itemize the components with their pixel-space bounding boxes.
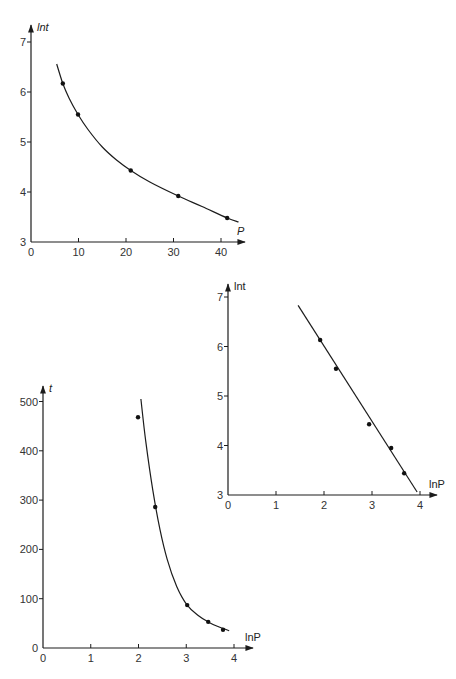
data-point	[206, 620, 210, 624]
y-tick-label: 100	[20, 593, 38, 605]
data-point	[176, 194, 180, 198]
data-point	[334, 367, 338, 371]
y-tick-label: 4	[20, 186, 26, 198]
chart-lnt-vs-p: 010203040 34567 P lnt	[20, 21, 245, 258]
y-tick-label: 200	[20, 543, 38, 555]
data-point	[61, 81, 65, 85]
y-tick-label: 6	[20, 86, 26, 98]
data-point	[318, 338, 322, 342]
y-axis-label: lnt	[37, 21, 50, 33]
y-ticks: 34567	[217, 291, 228, 501]
x-tick-label: 0	[40, 652, 46, 664]
x-tick-label: 3	[183, 652, 189, 664]
x-tick-label: 40	[215, 246, 227, 258]
fit-curve	[141, 399, 229, 631]
x-tick-label: 0	[28, 246, 34, 258]
data-point	[76, 112, 80, 116]
x-axis-label: P	[237, 225, 245, 237]
data-point	[225, 216, 229, 220]
y-tick-label: 300	[20, 494, 38, 506]
x-ticks: 01234	[225, 491, 423, 511]
x-tick-label: 2	[135, 652, 141, 664]
y-tick-label: 0	[32, 642, 38, 654]
y-tick-label: 400	[20, 445, 38, 457]
y-tick-label: 5	[217, 390, 223, 402]
chart-t-vs-lnp: 01234 0100200300400500 lnP t	[20, 382, 261, 664]
data-point	[185, 603, 189, 607]
y-tick-label: 500	[20, 396, 38, 408]
fit-line	[298, 305, 417, 492]
data-points	[136, 415, 225, 632]
x-tick-label: 10	[72, 246, 84, 258]
x-tick-label: 2	[321, 499, 327, 511]
fit-curve	[57, 64, 239, 222]
data-point	[389, 446, 393, 450]
chart-lnt-vs-lnp: 01234 34567 lnP lnt	[217, 280, 445, 511]
y-tick-label: 6	[217, 341, 223, 353]
x-axis-label: lnP	[245, 631, 261, 643]
y-axis-label: lnt	[234, 280, 246, 292]
data-point	[153, 505, 157, 509]
data-point	[367, 422, 371, 426]
y-tick-label: 5	[20, 136, 26, 148]
x-tick-label: 30	[167, 246, 179, 258]
x-tick-label: 1	[88, 652, 94, 664]
x-axis-label: lnP	[429, 478, 445, 490]
x-ticks: 010203040	[28, 238, 227, 258]
data-points	[61, 81, 230, 220]
x-tick-label: 1	[273, 499, 279, 511]
data-point	[221, 628, 225, 632]
x-tick-label: 0	[225, 499, 231, 511]
y-tick-label: 3	[20, 236, 26, 248]
x-tick-label: 20	[120, 246, 132, 258]
x-tick-label: 4	[231, 652, 237, 664]
x-tick-label: 4	[417, 499, 423, 511]
x-tick-label: 3	[369, 499, 375, 511]
y-ticks: 34567	[20, 36, 31, 248]
data-point	[129, 168, 133, 172]
y-tick-label: 3	[217, 489, 223, 501]
y-tick-label: 7	[20, 36, 26, 48]
data-point	[402, 471, 406, 475]
y-ticks: 0100200300400500	[20, 396, 43, 655]
y-tick-label: 7	[217, 291, 223, 303]
x-ticks: 01234	[40, 644, 237, 664]
data-point	[136, 415, 140, 419]
y-axis-label: t	[49, 382, 53, 394]
figure-canvas: 010203040 34567 P lnt 01234 34567 lnP ln…	[0, 0, 456, 679]
y-tick-label: 4	[217, 440, 223, 452]
